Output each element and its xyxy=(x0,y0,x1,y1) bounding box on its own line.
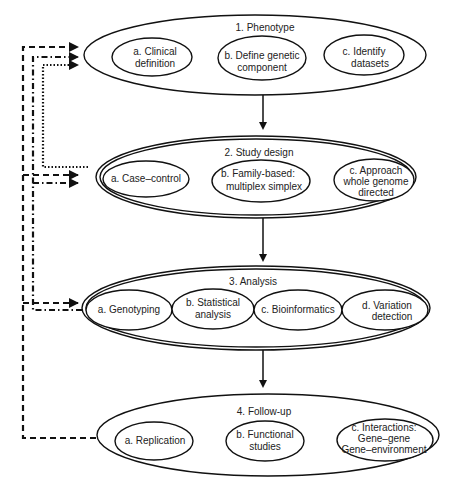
stage-title: 2. Study design xyxy=(225,147,294,158)
item-replication: a. Replication xyxy=(115,422,193,460)
svg-text:c. Approach: c. Approach xyxy=(350,165,403,176)
svg-text:d. Variation: d. Variation xyxy=(362,300,412,311)
item-functional-studies: b. Functional studies xyxy=(226,421,304,461)
svg-text:b. Family-based:: b. Family-based: xyxy=(221,168,295,179)
svg-text:detection: detection xyxy=(372,311,413,322)
svg-text:a. Genotyping: a. Genotyping xyxy=(98,304,160,315)
stage-phenotype: 1. Phenotype a. Clinical definition b. D… xyxy=(84,15,426,95)
svg-text:a. Case–control: a. Case–control xyxy=(111,173,181,184)
stage-study-design: 2. Study design a. Case–control b. Famil… xyxy=(96,136,416,218)
item-clinical-definition: a. Clinical definition xyxy=(112,38,192,76)
item-statistical-analysis: b. Statistical analysis xyxy=(172,289,254,329)
svg-text:component: component xyxy=(237,62,287,73)
stage-title: 1. Phenotype xyxy=(236,22,295,33)
item-variation-detection: d. Variation detection xyxy=(342,290,428,330)
item-define-genetic-component: b. Define genetic component xyxy=(218,36,306,80)
svg-text:c. Interactions:: c. Interactions: xyxy=(351,422,416,433)
genetic-study-workflow-diagram: 1. Phenotype a. Clinical definition b. D… xyxy=(0,0,459,491)
svg-text:multiplex simplex: multiplex simplex xyxy=(226,181,302,192)
feedback-dotted-line xyxy=(43,65,88,167)
stage-title: 3. Analysis xyxy=(229,276,277,287)
item-genotyping: a. Genotyping xyxy=(86,290,172,330)
svg-text:Gene–environment: Gene–environment xyxy=(341,444,426,455)
svg-text:a. Clinical: a. Clinical xyxy=(133,46,176,57)
item-interactions: c. Interactions: Gene–gene Gene–environm… xyxy=(337,419,433,461)
item-identify-datasets: c. Identify datasets xyxy=(324,35,404,75)
item-family-based: b. Family-based: multiplex simplex xyxy=(212,160,310,202)
svg-text:whole genome: whole genome xyxy=(342,176,408,187)
svg-text:Gene–gene: Gene–gene xyxy=(358,433,411,444)
stage-follow-up: 4. Follow-up a. Replication b. Functiona… xyxy=(97,394,439,476)
svg-text:studies: studies xyxy=(249,441,281,452)
svg-text:b. Statistical: b. Statistical xyxy=(186,297,240,308)
svg-text:datasets: datasets xyxy=(351,58,389,69)
svg-text:c. Bioinformatics: c. Bioinformatics xyxy=(261,304,334,315)
stage-title: 4. Follow-up xyxy=(237,406,292,417)
item-approach: c. Approach whole genome directed xyxy=(334,159,414,201)
stage-analysis: 3. Analysis a. Genotyping b. Statistical… xyxy=(82,266,430,350)
svg-text:b. Define genetic: b. Define genetic xyxy=(224,50,299,61)
svg-text:directed: directed xyxy=(358,187,394,198)
svg-text:definition: definition xyxy=(135,58,175,69)
item-bioinformatics: c. Bioinformatics xyxy=(254,290,342,330)
svg-text:b. Functional: b. Functional xyxy=(236,429,293,440)
svg-text:c. Identify: c. Identify xyxy=(343,46,386,57)
svg-text:analysis: analysis xyxy=(195,309,231,320)
item-case-control: a. Case–control xyxy=(103,161,189,197)
svg-text:a. Replication: a. Replication xyxy=(125,435,186,446)
